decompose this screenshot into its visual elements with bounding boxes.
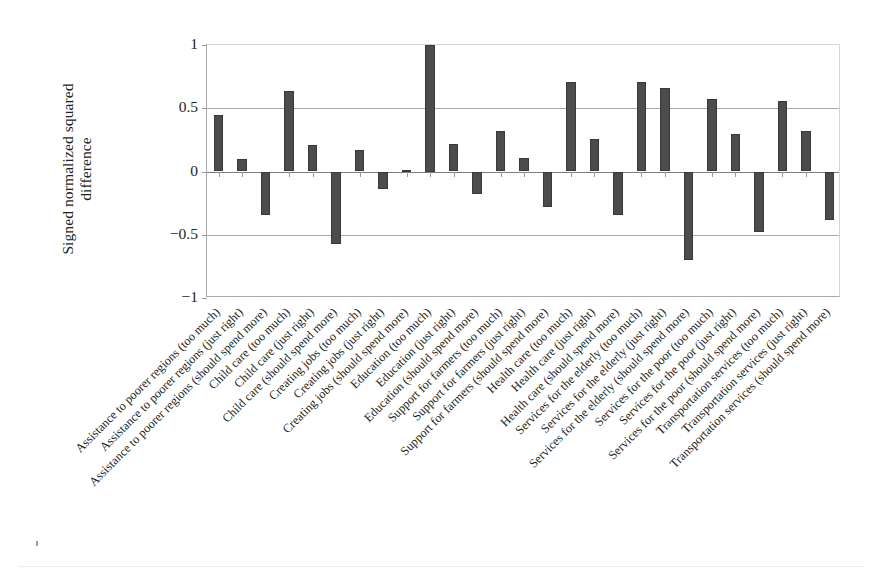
x-axis-tick-mark [430, 172, 431, 177]
bar[interactable] [590, 139, 600, 172]
bar[interactable] [801, 131, 811, 171]
bar[interactable] [543, 172, 553, 207]
x-axis-tick-mark [360, 172, 361, 177]
y-axis-tick-mark [202, 298, 207, 299]
bar[interactable] [355, 150, 365, 172]
x-axis-tick-mark [782, 172, 783, 177]
x-axis-tick-mark [641, 172, 642, 177]
bar-chart-figure: Signed normalized squareddifference 10.5… [0, 0, 871, 575]
bar[interactable] [519, 158, 529, 172]
bar[interactable] [707, 99, 717, 171]
x-axis-tick-mark [806, 172, 807, 177]
y-axis-tick-label: 0 [154, 163, 198, 179]
y-axis-tick-label: 0.5 [154, 100, 198, 116]
x-axis-tick-mark [501, 172, 502, 177]
gridline [207, 108, 839, 109]
y-axis-tick-label: 1 [154, 36, 198, 52]
x-axis-tick-mark [594, 172, 595, 177]
y-axis-title-text: Signed normalized squareddifference [59, 83, 96, 254]
zero-baseline [207, 172, 839, 173]
x-axis-tick-mark [571, 172, 572, 177]
bar[interactable] [825, 172, 835, 220]
bar[interactable] [754, 172, 764, 233]
x-axis-tick-mark [665, 172, 666, 177]
page-rule-divider [18, 566, 863, 567]
y-axis-tick-mark [202, 45, 207, 46]
bar[interactable] [425, 45, 435, 172]
x-axis-tick-mark [242, 172, 243, 177]
x-axis-tick-mark [454, 172, 455, 177]
page-speck [36, 541, 38, 546]
bar[interactable] [684, 172, 694, 261]
bar[interactable] [472, 172, 482, 195]
bar[interactable] [214, 115, 224, 172]
bar[interactable] [566, 82, 576, 172]
bar[interactable] [284, 91, 294, 172]
bar[interactable] [331, 172, 341, 244]
x-axis-tick-mark [289, 172, 290, 177]
plot-area [206, 44, 840, 297]
x-axis-tick-mark [735, 172, 736, 177]
x-axis-tick-mark [524, 172, 525, 177]
bar[interactable] [449, 144, 459, 172]
gridline [207, 235, 839, 236]
bar[interactable] [237, 159, 247, 172]
x-axis-tick-mark [407, 172, 408, 177]
bar[interactable] [731, 134, 741, 172]
bar[interactable] [778, 101, 788, 172]
bar[interactable] [261, 172, 271, 215]
x-axis-tick-mark [712, 172, 713, 177]
bar[interactable] [496, 131, 506, 171]
bar[interactable] [637, 82, 647, 172]
x-axis-tick-mark [219, 172, 220, 177]
y-axis-tick-label: −1 [154, 289, 198, 305]
y-axis-tick-label: −0.5 [154, 226, 198, 242]
bar[interactable] [613, 172, 623, 215]
bar[interactable] [402, 170, 412, 172]
bar[interactable] [378, 172, 388, 190]
bar[interactable] [308, 145, 318, 172]
bar[interactable] [660, 88, 670, 171]
x-axis-tick-mark [313, 172, 314, 177]
y-axis-title: Signed normalized squareddifference [62, 38, 92, 300]
